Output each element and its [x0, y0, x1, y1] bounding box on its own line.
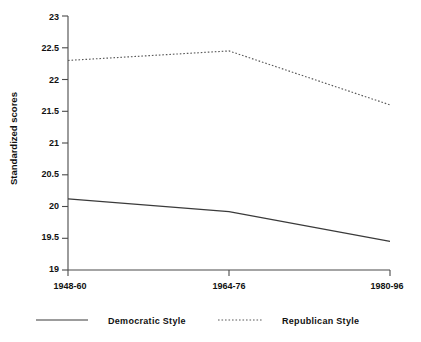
line-chart: Standardized scores 23 22.5 22 21.5 21 2…: [0, 0, 421, 342]
y-axis-tick-labels: 23 22.5 22 21.5 21 20.5 20 19.5 19: [41, 12, 59, 274]
x-axis-ticks: [68, 270, 390, 276]
legend-label-republican-style: Republican Style: [282, 316, 359, 326]
y-axis-title: Standardized scores: [8, 92, 19, 185]
y-tick-label: 21: [49, 138, 59, 148]
chart-canvas: Standardized scores 23 22.5 22 21.5 21 2…: [0, 0, 421, 342]
legend-label-democratic-style: Democratic Style: [108, 316, 186, 326]
series-line-republican-style: [68, 51, 390, 105]
y-tick-label: 20.5: [41, 169, 59, 179]
y-tick-label: 19: [49, 264, 59, 274]
y-tick-label: 22.5: [41, 43, 59, 53]
y-tick-label: 19.5: [41, 232, 59, 242]
x-tick-label: 1964-76: [212, 281, 245, 291]
x-axis-tick-labels: 1948-60 1964-76 1980-96: [53, 281, 403, 291]
y-tick-label: 23: [49, 12, 59, 22]
series-line-democratic-style: [68, 199, 390, 242]
y-tick-label: 21.5: [41, 106, 59, 116]
y-tick-label: 22: [49, 75, 59, 85]
y-axis-ticks: [62, 16, 68, 270]
x-tick-label: 1948-60: [53, 281, 86, 291]
x-tick-label: 1980-96: [370, 281, 403, 291]
y-tick-label: 20: [49, 201, 59, 211]
chart-legend: Democratic Style Republican Style: [36, 316, 359, 326]
